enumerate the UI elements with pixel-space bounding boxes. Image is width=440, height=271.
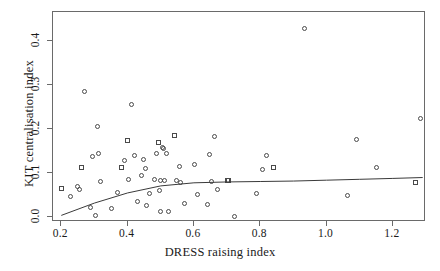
data-point xyxy=(172,133,177,138)
data-point xyxy=(260,167,265,172)
data-point xyxy=(126,177,131,182)
data-point xyxy=(226,178,231,183)
data-point xyxy=(82,89,87,94)
data-point xyxy=(195,192,200,197)
x-tick-mark xyxy=(392,221,393,226)
scatter-plot-figure: DRESS raising index KIT centralisation i… xyxy=(0,0,440,271)
data-point xyxy=(132,153,137,158)
x-tick-mark xyxy=(259,221,260,226)
data-point xyxy=(139,173,144,178)
data-point xyxy=(178,180,183,185)
data-point xyxy=(215,187,220,192)
data-point xyxy=(205,202,210,207)
data-point xyxy=(144,203,149,208)
data-point xyxy=(207,152,212,157)
y-tick-mark xyxy=(47,84,52,85)
data-point xyxy=(157,188,162,193)
data-point xyxy=(209,179,214,184)
data-point xyxy=(98,179,103,184)
x-tick-label: 0.6 xyxy=(185,227,200,239)
data-point xyxy=(254,191,259,196)
y-tick-mark xyxy=(47,172,52,173)
data-point xyxy=(345,193,350,198)
x-tick-label: 0.8 xyxy=(252,227,267,239)
data-point xyxy=(182,201,187,206)
y-tick-mark xyxy=(47,40,52,41)
data-point xyxy=(141,157,146,162)
data-point xyxy=(59,186,64,191)
y-tick-label: 0.2 xyxy=(29,120,41,134)
data-point xyxy=(271,165,276,170)
x-tick-mark xyxy=(127,221,128,226)
data-point xyxy=(129,102,134,107)
data-point xyxy=(79,165,84,170)
x-tick-mark xyxy=(60,221,61,226)
data-point xyxy=(152,177,157,182)
data-point xyxy=(77,187,82,192)
x-tick-label: 0.4 xyxy=(119,227,134,239)
data-point xyxy=(374,165,379,170)
data-point xyxy=(109,206,114,211)
x-tick-mark xyxy=(326,221,327,226)
data-point xyxy=(119,165,124,170)
data-point xyxy=(135,199,140,204)
y-tick-label: 0.1 xyxy=(29,165,41,179)
data-point xyxy=(164,151,169,156)
data-point xyxy=(212,134,217,139)
data-point xyxy=(418,116,423,121)
x-tick-label: 1.2 xyxy=(384,227,399,239)
data-point xyxy=(125,138,130,143)
data-point xyxy=(162,178,167,183)
x-tick-mark xyxy=(193,221,194,226)
data-point xyxy=(354,137,359,142)
y-tick-mark xyxy=(47,128,52,129)
data-point xyxy=(115,190,120,195)
data-point xyxy=(147,191,152,196)
data-point xyxy=(122,158,127,163)
data-point xyxy=(192,162,197,167)
data-point xyxy=(95,124,100,129)
data-point xyxy=(232,214,237,219)
plot-frame xyxy=(52,11,425,221)
y-tick-label: 0.3 xyxy=(29,76,41,90)
data-point xyxy=(143,166,148,171)
y-tick-label: 0.4 xyxy=(29,32,41,46)
data-point xyxy=(177,164,182,169)
plot-area xyxy=(53,12,424,220)
x-tick-label: 1.0 xyxy=(318,227,333,239)
data-point xyxy=(302,26,307,31)
data-point xyxy=(154,151,159,156)
y-tick-mark xyxy=(47,216,52,217)
data-point xyxy=(93,213,98,218)
data-point xyxy=(264,153,269,158)
data-point xyxy=(156,140,161,145)
data-point xyxy=(166,209,171,214)
data-point xyxy=(158,209,163,214)
data-point xyxy=(413,180,418,185)
x-tick-label: 0.2 xyxy=(53,227,68,239)
data-point xyxy=(96,151,101,156)
data-point xyxy=(90,154,95,159)
x-axis-label: DRESS raising index xyxy=(0,245,440,260)
data-point xyxy=(88,205,93,210)
y-tick-label: 0.0 xyxy=(29,209,41,223)
data-point xyxy=(68,194,73,199)
